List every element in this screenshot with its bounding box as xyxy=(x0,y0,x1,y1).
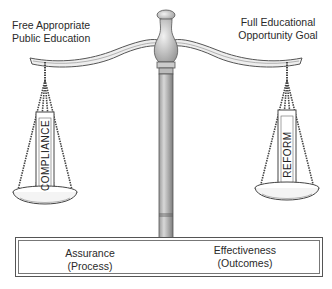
base-right-label: Effectiveness (Outcomes) xyxy=(200,244,290,270)
base-right-line-1: Effectiveness xyxy=(200,244,290,257)
left-goal-line-2: Public Education xyxy=(12,32,90,45)
base-left-label: Assurance (Process) xyxy=(50,247,130,273)
left-goal-label: Free Appropriate Public Education xyxy=(12,19,90,45)
base-left-line-1: Assurance xyxy=(50,247,130,260)
base-left-line-2: (Process) xyxy=(50,260,130,273)
right-goal-line-1: Full Educational xyxy=(228,16,328,29)
left-goal-line-1: Free Appropriate xyxy=(12,19,90,32)
base-right-line-2: (Outcomes) xyxy=(200,257,290,270)
right-goal-line-2: Opportunity Goal xyxy=(228,29,328,42)
right-pan-label: REFORM xyxy=(282,115,293,195)
pole xyxy=(159,74,173,238)
left-pan-label: COMPLIANCE xyxy=(40,116,51,196)
right-goal-label: Full Educational Opportunity Goal xyxy=(228,16,328,42)
finial xyxy=(154,10,177,74)
